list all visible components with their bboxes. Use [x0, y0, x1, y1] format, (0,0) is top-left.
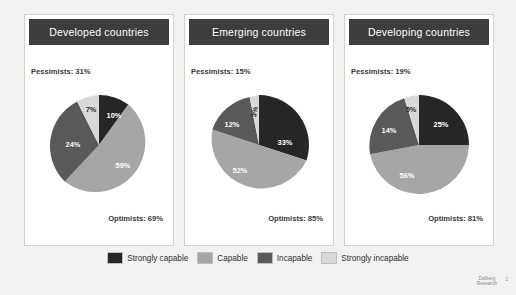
pie-label-capable: 56% — [400, 171, 415, 180]
panel-body-developed: Pessimists: 31% 10% 59% 24% 7% — [25, 45, 173, 246]
pie-label-capable: 52% — [233, 166, 248, 175]
panel-row: Developed countries Pessimists: 31% 10% … — [24, 14, 494, 246]
pessimists-label-developing: Pessimists: 19% — [351, 67, 411, 76]
panel-body-emerging: Pessimists: 15% 33% 52% 12% 3% — [185, 45, 333, 246]
pie-label-strongly-capable: 10% — [107, 111, 122, 120]
legend-item-incapable[interactable]: Incapable — [257, 252, 313, 264]
pie-label-incapable: 24% — [66, 140, 81, 149]
pie-label-capable: 59% — [116, 161, 131, 170]
footer-watermark: Dalberg Research 1 — [477, 276, 508, 287]
optimists-label-developing: Optimists: 81% — [428, 214, 483, 223]
page-number: 1 — [505, 276, 508, 282]
pie-chart-emerging[interactable]: 33% 52% 12% 3% — [207, 93, 311, 197]
pessimists-label-emerging: Pessimists: 15% — [191, 67, 251, 76]
slide-canvas: Developed countries Pessimists: 31% 10% … — [0, 0, 516, 295]
pie-slices-developed — [50, 95, 145, 192]
brand-line-2: Research — [477, 281, 497, 287]
optimists-label-developed: Optimists: 69% — [108, 214, 163, 223]
legend-label: Strongly incapable — [341, 254, 408, 263]
pie-svg-developing: 25% 56% 14% 5% — [367, 93, 471, 197]
legend-item-strongly-incapable[interactable]: Strongly incapable — [321, 252, 408, 264]
pie-label-strongly-capable: 25% — [434, 120, 449, 129]
panel-body-developing: Pessimists: 19% 25% 56% 14% 5% — [345, 45, 493, 246]
pie-label-strongly-incapable: 3% — [249, 105, 260, 118]
legend-swatch-icon — [321, 252, 337, 264]
legend-swatch-icon — [197, 252, 213, 264]
legend-item-strongly-capable[interactable]: Strongly capable — [107, 252, 188, 264]
legend-swatch-icon — [257, 252, 273, 264]
chart-legend: Strongly capable Capable Incapable Stron… — [0, 252, 516, 264]
legend-swatch-icon — [107, 252, 123, 264]
legend-label: Incapable — [277, 254, 313, 263]
panel-developing-countries[interactable]: Developing countries Pessimists: 19% 25%… — [344, 14, 494, 246]
legend-item-capable[interactable]: Capable — [197, 252, 248, 264]
pie-label-incapable: 14% — [382, 126, 397, 135]
panel-emerging-countries[interactable]: Emerging countries Pessimists: 15% 33% 5… — [184, 14, 334, 246]
panel-title-developed: Developed countries — [29, 19, 169, 45]
pie-chart-developed[interactable]: 10% 59% 24% 7% — [47, 93, 151, 197]
pie-label-strongly-capable: 33% — [278, 138, 293, 147]
optimists-label-emerging: Optimists: 85% — [268, 214, 323, 223]
pie-svg-emerging: 33% 52% 12% 3% — [207, 93, 311, 197]
panel-developed-countries[interactable]: Developed countries Pessimists: 31% 10% … — [24, 14, 174, 246]
pie-chart-developing[interactable]: 25% 56% 14% 5% — [367, 93, 471, 197]
pie-label-strongly-incapable: 7% — [86, 105, 97, 114]
pie-label-incapable: 12% — [225, 120, 240, 129]
panel-title-emerging: Emerging countries — [189, 19, 329, 45]
pie-svg-developed: 10% 59% 24% 7% — [47, 93, 151, 197]
legend-label: Capable — [217, 254, 248, 263]
legend-label: Strongly capable — [127, 254, 188, 263]
panel-title-developing: Developing countries — [349, 19, 489, 45]
pie-slices-emerging — [212, 95, 309, 188]
pessimists-label-developed: Pessimists: 31% — [31, 67, 91, 76]
pie-slices-developing — [369, 95, 469, 194]
brand-mark: Dalberg Research — [477, 276, 497, 287]
pie-label-strongly-incapable: 5% — [406, 105, 417, 114]
pie-slice-capable[interactable] — [370, 145, 469, 194]
